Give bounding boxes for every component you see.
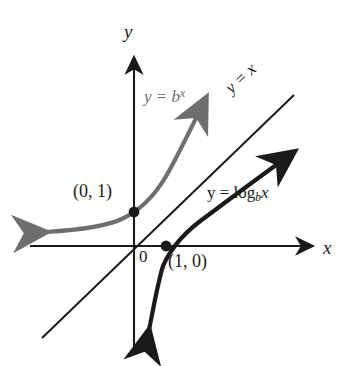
- exponential-curve-label: y = bx: [144, 88, 185, 105]
- exponential-curve: [46, 98, 206, 232]
- logarithm-label-argument: x: [261, 183, 269, 202]
- point-0-1-label: (0, 1): [73, 182, 112, 200]
- logarithm-exponential-graph-figure: y x y = bx y = x y = logbx (0, 1) (1, 0)…: [0, 0, 347, 366]
- graph-canvas: [0, 0, 347, 366]
- point-0-1-dot: [129, 207, 140, 218]
- logarithm-label-base: y = log: [207, 183, 255, 202]
- exponential-label-base: y = b: [144, 87, 180, 106]
- identity-line-curve: [42, 95, 294, 338]
- point-1-0-label: (1, 0): [168, 252, 207, 270]
- point-1-0-dot: [161, 241, 172, 252]
- x-axis-label: x: [323, 238, 331, 257]
- y-axis-label: y: [124, 22, 132, 41]
- logarithm-curve-label: y = logbx: [207, 184, 269, 204]
- origin-label: 0: [139, 248, 148, 265]
- exponential-label-exponent: x: [180, 87, 185, 100]
- logarithm-curve: [149, 152, 294, 330]
